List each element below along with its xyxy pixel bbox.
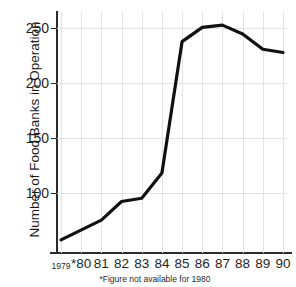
x-tick-label: 85	[175, 256, 190, 271]
series-polyline	[61, 25, 283, 240]
y-tick-label: 100	[26, 185, 49, 201]
x-tick-label: 87	[215, 256, 230, 271]
x-tick-label: 90	[275, 256, 290, 271]
y-tick-label: 250	[26, 20, 49, 36]
x-tick-label: 1979	[52, 261, 71, 271]
x-tick-label: 86	[195, 256, 210, 271]
plot-area: 100150200250	[57, 12, 287, 253]
food-banks-line-chart: of Food Banks Number of Food Banks in Op…	[0, 0, 296, 287]
x-tick-label: 88	[235, 256, 250, 271]
x-tick-label: 83	[134, 256, 149, 271]
chart-footnote: *Figure not available for 1980	[0, 274, 296, 284]
chart-title: of Food Banks	[120, 0, 296, 2]
x-tick-label: 82	[114, 256, 129, 271]
x-tick-label: 89	[255, 256, 270, 271]
series-line	[57, 12, 287, 253]
x-tick-label: *80	[71, 256, 91, 271]
x-tick-label: 81	[94, 256, 109, 271]
y-tick-label: 150	[26, 130, 49, 146]
y-tick-label: 200	[26, 75, 49, 91]
x-tick-label: 84	[154, 256, 169, 271]
